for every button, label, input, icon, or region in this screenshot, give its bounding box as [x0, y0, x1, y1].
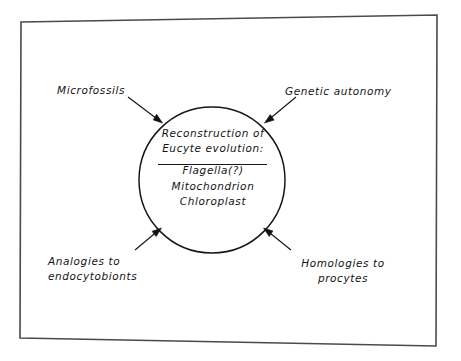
leader-microfossils: [128, 97, 163, 123]
core-heading-line-1: Reconstruction of: [140, 126, 286, 141]
label-genetic-autonomy: Genetic autonomy: [285, 84, 392, 99]
label-analogies-line-2: endocytobionts: [48, 270, 137, 282]
core-spacer: [140, 156, 286, 163]
label-homologies-line-1: Homologies to: [301, 257, 385, 269]
label-analogies-line-1: Analogies to: [48, 255, 120, 267]
leader-homologies: [264, 228, 292, 250]
label-microfossils: Microfossils: [57, 83, 125, 98]
core-item-flagella: Flagella(?): [140, 163, 286, 178]
core-text-block: Reconstruction of Eucyte evolution: Flag…: [140, 126, 286, 209]
leader-genetic-autonomy: [265, 97, 297, 123]
label-homologies-line-2: procytes: [318, 272, 368, 284]
label-homologies-to-procytes: Homologies to procytes: [283, 256, 403, 286]
core-item-mitochondrion: Mitochondrion: [140, 179, 286, 194]
core-item-chloroplast: Chloroplast: [140, 194, 286, 209]
figure-root: Reconstruction of Eucyte evolution: Flag…: [0, 0, 461, 361]
arrowhead-microfossils: [153, 114, 162, 123]
leader-analogies: [135, 228, 162, 250]
arrowhead-homologies: [264, 228, 273, 237]
core-heading-line-2: Eucyte evolution:: [140, 141, 286, 156]
label-analogies-to-endocytobionts: Analogies to endocytobionts: [48, 254, 137, 284]
